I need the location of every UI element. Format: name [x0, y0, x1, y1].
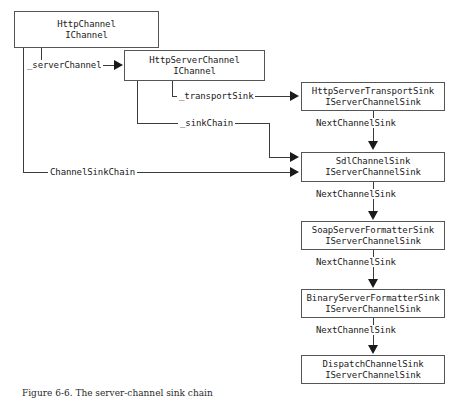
edge-label-next-1: NextChannelSink: [314, 118, 398, 128]
node-class-name: HttpServerChannel: [149, 55, 239, 66]
node-interface-name: IServerChannelSink: [325, 97, 421, 108]
edge-sink-chain-stub: [137, 81, 138, 123]
edge-next-4-arrowhead: [368, 345, 378, 354]
node-soap-server-formatter-sink: SoapServerFormatterSink IServerChannelSi…: [301, 221, 445, 250]
node-http-server-transport-sink: HttpServerTransportSink IServerChannelSi…: [301, 82, 445, 111]
edge-label-server-channel: _serverChannel: [25, 60, 103, 70]
edge-label-next-4: NextChannelSink: [314, 325, 398, 335]
edge-channel-sink-chain-stub: [23, 48, 24, 173]
edge-next-2-arrowhead: [368, 211, 378, 220]
edge-transport-sink-arrowhead: [290, 91, 299, 101]
node-class-name: HttpChannel: [57, 19, 116, 30]
node-interface-name: IServerChannelSink: [325, 304, 421, 315]
node-class-name: DispatchChannelSink: [322, 359, 423, 370]
edge-label-next-3: NextChannelSink: [314, 257, 398, 267]
figure-caption: Figure 6-6. The server-channel sink chai…: [22, 388, 442, 398]
node-interface-name: IServerChannelSink: [325, 370, 421, 381]
node-interface-name: IServerChannelSink: [325, 167, 421, 178]
edge-sink-chain-approach: [269, 157, 292, 158]
node-http-server-channel: HttpServerChannel IChannel: [124, 50, 265, 81]
edge-label-channel-sink-chain: ChannelSinkChain: [48, 167, 137, 177]
node-interface-name: IServerChannelSink: [325, 236, 421, 247]
edge-sink-chain-arrowhead: [290, 152, 299, 162]
node-class-name: BinaryServerFormatterSink: [307, 293, 440, 304]
edge-next-1-arrowhead: [368, 141, 378, 150]
edge-channel-sink-chain-arrowhead: [290, 167, 299, 177]
node-class-name: SdlChannelSink: [336, 156, 410, 167]
channel-sink-chain-diagram: HttpChannel IChannel HttpServerChannel I…: [0, 0, 461, 398]
node-dispatch-channel-sink: DispatchChannelSink IServerChannelSink: [301, 355, 445, 384]
edge-server-channel-arrowhead: [114, 60, 123, 70]
node-interface-name: IChannel: [65, 30, 108, 41]
node-interface-name: IChannel: [173, 66, 216, 77]
node-class-name: SoapServerFormatterSink: [312, 225, 434, 236]
node-class-name: HttpServerTransportSink: [312, 86, 434, 97]
edge-label-transport-sink: _transportSink: [177, 91, 255, 101]
edge-next-3-arrowhead: [368, 279, 378, 288]
edge-label-next-2: NextChannelSink: [314, 189, 398, 199]
edge-transport-sink-stub: [172, 81, 173, 96]
node-sdl-channel-sink: SdlChannelSink IServerChannelSink: [301, 152, 445, 182]
edge-sink-chain-drop: [269, 123, 270, 158]
node-binary-server-formatter-sink: BinaryServerFormatterSink IServerChannel…: [301, 289, 445, 318]
edge-label-sink-chain: _sinkChain: [178, 118, 235, 128]
node-http-channel: HttpChannel IChannel: [14, 11, 159, 48]
